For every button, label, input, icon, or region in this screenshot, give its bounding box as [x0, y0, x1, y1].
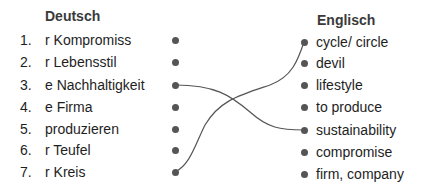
left-connector-dot-1[interactable]	[172, 37, 179, 44]
right-connector-dot-2[interactable]	[301, 60, 308, 67]
right-connector-dot-1[interactable]	[301, 39, 308, 46]
right-connector-dot-6[interactable]	[301, 149, 308, 156]
left-connector-dot-6[interactable]	[172, 147, 179, 154]
right-connector-dot-5[interactable]	[301, 127, 308, 134]
right-connector-dot-3[interactable]	[301, 82, 308, 89]
left-connector-dot-3[interactable]	[172, 82, 179, 89]
right-item-1: cycle/ circle	[316, 32, 388, 52]
right-item-6: compromise	[316, 142, 392, 162]
connection-line-7-cycle	[175, 42, 304, 172]
right-item-7: firm, company	[316, 164, 404, 184]
right-item-3: lifestyle	[316, 75, 363, 95]
left-connector-dot-2[interactable]	[172, 59, 179, 66]
left-connector-dot-7[interactable]	[172, 169, 179, 176]
right-item-4: to produce	[316, 97, 382, 117]
left-connector-dot-4[interactable]	[172, 104, 179, 111]
connection-line-3-sustainability	[175, 85, 304, 130]
left-connector-dot-5[interactable]	[172, 126, 179, 133]
right-item-5: sustainability	[316, 120, 396, 140]
right-item-2: devil	[316, 53, 345, 73]
right-connector-dot-4[interactable]	[301, 104, 308, 111]
right-connector-dot-7[interactable]	[301, 171, 308, 178]
